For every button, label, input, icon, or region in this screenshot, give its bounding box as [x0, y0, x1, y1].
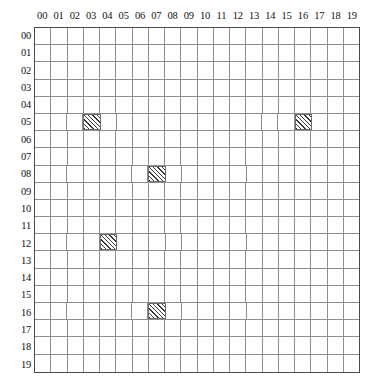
grid-cell-empty[interactable]: [68, 131, 84, 147]
grid-cell-empty[interactable]: [35, 234, 51, 250]
grid-cell-empty[interactable]: [263, 97, 279, 113]
grid-cell-empty[interactable]: [100, 148, 116, 164]
grid-cell-filled[interactable]: [148, 166, 165, 182]
grid-cell-empty[interactable]: [133, 269, 149, 285]
grid-cell-empty[interactable]: [149, 355, 165, 372]
grid-cell-empty[interactable]: [263, 28, 279, 44]
grid-cell-empty[interactable]: [165, 251, 181, 267]
grid-cell-empty[interactable]: [279, 166, 295, 182]
grid-cell-empty[interactable]: [67, 166, 83, 182]
grid-cell-empty[interactable]: [51, 269, 67, 285]
grid-cell-empty[interactable]: [263, 320, 279, 336]
grid-cell-empty[interactable]: [279, 217, 295, 233]
grid-cell-empty[interactable]: [328, 355, 344, 372]
grid-cell-empty[interactable]: [263, 251, 279, 267]
grid-cell-empty[interactable]: [311, 183, 327, 199]
grid-cell-empty[interactable]: [133, 217, 149, 233]
grid-cell-empty[interactable]: [295, 303, 311, 319]
grid-cell-empty[interactable]: [166, 166, 182, 182]
grid-cell-empty[interactable]: [295, 97, 311, 113]
grid-cell-empty[interactable]: [51, 148, 67, 164]
grid-cell-empty[interactable]: [116, 355, 132, 372]
grid-cell-empty[interactable]: [149, 148, 165, 164]
grid-cell-empty[interactable]: [133, 355, 149, 372]
grid-cell-empty[interactable]: [84, 355, 100, 372]
grid-cell-empty[interactable]: [344, 148, 359, 164]
grid-cell-empty[interactable]: [279, 251, 295, 267]
grid-cell-empty[interactable]: [100, 286, 116, 302]
grid-cell-empty[interactable]: [278, 114, 294, 130]
grid-cell-empty[interactable]: [84, 200, 100, 216]
grid-cell-empty[interactable]: [165, 337, 181, 353]
grid-cell-empty[interactable]: [279, 80, 295, 96]
grid-cell-empty[interactable]: [35, 166, 51, 182]
grid-cell-empty[interactable]: [166, 303, 182, 319]
grid-cell-empty[interactable]: [181, 183, 197, 199]
grid-cell-empty[interactable]: [35, 355, 51, 372]
grid-cell-empty[interactable]: [181, 28, 197, 44]
grid-cell-empty[interactable]: [246, 217, 262, 233]
grid-cell-empty[interactable]: [279, 200, 295, 216]
grid-cell-empty[interactable]: [279, 337, 295, 353]
grid-cell-empty[interactable]: [116, 45, 132, 61]
grid-cell-empty[interactable]: [311, 320, 327, 336]
grid-cell-empty[interactable]: [198, 303, 214, 319]
grid-cell-empty[interactable]: [311, 45, 327, 61]
grid-cell-empty[interactable]: [263, 148, 279, 164]
grid-cell-empty[interactable]: [246, 337, 262, 353]
grid-cell-empty[interactable]: [230, 355, 246, 372]
grid-cell-empty[interactable]: [100, 97, 116, 113]
grid-cell-empty[interactable]: [181, 148, 197, 164]
grid-cell-empty[interactable]: [116, 62, 132, 78]
grid-cell-empty[interactable]: [279, 97, 295, 113]
grid-cell-empty[interactable]: [311, 80, 327, 96]
grid-cell-empty[interactable]: [214, 131, 230, 147]
grid-cell-empty[interactable]: [311, 97, 327, 113]
grid-cell-empty[interactable]: [328, 80, 344, 96]
grid-cell-empty[interactable]: [247, 303, 263, 319]
grid-cell-empty[interactable]: [295, 45, 311, 61]
grid-cell-empty[interactable]: [149, 62, 165, 78]
grid-cell-empty[interactable]: [246, 114, 262, 130]
grid-cell-empty[interactable]: [149, 234, 165, 250]
grid-cell-empty[interactable]: [68, 97, 84, 113]
grid-cell-empty[interactable]: [35, 269, 51, 285]
grid-cell-empty[interactable]: [116, 303, 132, 319]
grid-cell-empty[interactable]: [181, 217, 197, 233]
grid-cell-empty[interactable]: [84, 303, 100, 319]
grid-cell-empty[interactable]: [263, 286, 279, 302]
grid-cell-empty[interactable]: [133, 183, 149, 199]
grid-cell-empty[interactable]: [116, 183, 132, 199]
grid-cell-empty[interactable]: [51, 183, 67, 199]
grid-cell-empty[interactable]: [182, 303, 198, 319]
grid-cell-empty[interactable]: [214, 183, 230, 199]
grid-cell-empty[interactable]: [133, 97, 149, 113]
grid-cell-empty[interactable]: [51, 114, 67, 130]
grid-cell-empty[interactable]: [328, 269, 344, 285]
grid-cell-empty[interactable]: [67, 234, 83, 250]
grid-cell-empty[interactable]: [35, 337, 51, 353]
grid-cell-empty[interactable]: [181, 45, 197, 61]
grid-cell-empty[interactable]: [246, 28, 262, 44]
grid-cell-empty[interactable]: [311, 148, 327, 164]
grid-cell-empty[interactable]: [279, 286, 295, 302]
grid-cell-empty[interactable]: [116, 131, 132, 147]
grid-cell-empty[interactable]: [165, 183, 181, 199]
grid-cell-empty[interactable]: [344, 183, 359, 199]
grid-cell-empty[interactable]: [344, 28, 359, 44]
grid-cell-empty[interactable]: [344, 337, 359, 353]
grid-cell-empty[interactable]: [181, 269, 197, 285]
grid-cell-empty[interactable]: [67, 114, 83, 130]
grid-cell-empty[interactable]: [328, 114, 344, 130]
grid-cell-empty[interactable]: [84, 62, 100, 78]
grid-cell-empty[interactable]: [214, 337, 230, 353]
grid-cell-empty[interactable]: [246, 269, 262, 285]
grid-cell-empty[interactable]: [181, 97, 197, 113]
grid-cell-empty[interactable]: [198, 28, 214, 44]
grid-cell-empty[interactable]: [344, 286, 359, 302]
grid-cell-empty[interactable]: [51, 131, 67, 147]
grid-cell-empty[interactable]: [214, 148, 230, 164]
grid-cell-empty[interactable]: [182, 234, 198, 250]
grid-cell-empty[interactable]: [116, 80, 132, 96]
grid-cell-empty[interactable]: [165, 320, 181, 336]
